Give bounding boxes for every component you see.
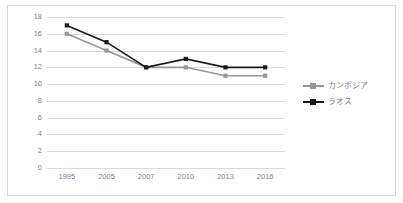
legend-marker-icon <box>310 83 316 89</box>
legend-label: カンボジア <box>328 82 368 90</box>
data-point-marker <box>263 65 267 69</box>
legend-label: ラオス <box>328 98 352 106</box>
data-point-marker <box>144 65 148 69</box>
y-tick-label: 0 <box>20 164 42 172</box>
data-point-marker <box>184 57 188 61</box>
x-tick-label: 2013 <box>206 173 246 181</box>
series-line <box>67 34 265 76</box>
legend-swatch-icon <box>303 81 324 91</box>
y-tick-label: 14 <box>20 47 42 55</box>
y-tick-label: 8 <box>20 97 42 105</box>
plot-area <box>47 17 285 168</box>
y-tick-label: 2 <box>20 147 42 155</box>
chart-legend: カンボジアラオス <box>303 78 391 110</box>
y-tick-label: 12 <box>20 64 42 72</box>
data-point-marker <box>263 74 267 78</box>
data-point-marker <box>223 74 227 78</box>
y-tick-label: 6 <box>20 114 42 122</box>
x-tick-label: 1995 <box>47 173 87 181</box>
data-point-marker <box>184 65 188 69</box>
series-layer <box>47 17 285 168</box>
legend-marker-icon <box>310 99 316 105</box>
gridline <box>47 168 285 169</box>
x-tick-label: 2010 <box>166 173 206 181</box>
x-tick-label: 2005 <box>87 173 127 181</box>
x-tick-label: 2007 <box>126 173 166 181</box>
data-point-marker <box>65 32 69 36</box>
y-tick-label: 4 <box>20 131 42 139</box>
y-tick-label: 16 <box>20 30 42 38</box>
data-point-marker <box>104 48 108 52</box>
chart-figure: 024681012141618 199520052007201020132016… <box>0 0 403 203</box>
data-point-marker <box>65 23 69 27</box>
data-point-marker <box>223 65 227 69</box>
x-tick-label: 2016 <box>245 173 285 181</box>
data-point-marker <box>104 40 108 44</box>
y-tick-label: 18 <box>20 13 42 21</box>
legend-item[interactable]: カンボジア <box>303 78 391 94</box>
y-axis: 024681012141618 <box>18 17 42 168</box>
legend-swatch-icon <box>303 97 324 107</box>
legend-item[interactable]: ラオス <box>303 94 391 110</box>
x-axis: 199520052007201020132016 <box>47 173 285 187</box>
y-tick-label: 10 <box>20 80 42 88</box>
